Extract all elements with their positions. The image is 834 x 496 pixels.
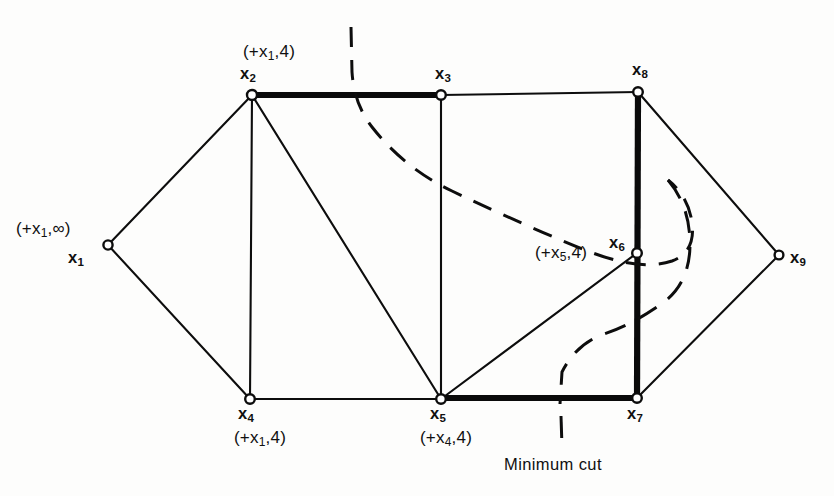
node-label-x4: x4 <box>238 404 254 424</box>
cut-curve-lower <box>560 180 690 404</box>
node-label-x9: x9 <box>790 248 806 268</box>
flow-label-x5: (+x4,4) <box>420 428 472 449</box>
node-label-x3: x3 <box>435 64 451 84</box>
edge-x3-x8 <box>441 92 638 95</box>
edge-x2-x4 <box>250 95 252 399</box>
edge-x8-x6-x7-saturated <box>637 92 638 400</box>
node-x3[interactable] <box>436 90 446 100</box>
edge-x1-x2 <box>108 95 252 245</box>
edge-x8-x9 <box>638 92 779 255</box>
edge-x1-x4 <box>108 245 250 399</box>
node-x7[interactable] <box>632 393 642 403</box>
edge-x2-x5 <box>252 95 441 399</box>
edges-thin-group <box>108 92 779 399</box>
node-x1[interactable] <box>103 240 112 249</box>
flow-label-x2: (+x1,4) <box>243 42 295 63</box>
flow-label-x1-source: (+x1,∞) <box>16 219 71 240</box>
node-label-x5: x5 <box>430 404 446 424</box>
node-x4[interactable] <box>245 394 255 404</box>
edge-x5-x6 <box>441 253 637 399</box>
node-x5[interactable] <box>436 394 446 404</box>
node-label-x7: x7 <box>627 404 643 424</box>
node-label-x8: x8 <box>632 60 648 80</box>
cut-curve-tail-end <box>561 416 562 447</box>
flow-label-x6: (+x5,4) <box>535 243 587 264</box>
node-x8[interactable] <box>633 87 643 97</box>
flow-label-x4: (+x1,4) <box>234 428 286 449</box>
edge-x7-x9 <box>637 255 779 398</box>
network-graph-canvas <box>0 0 834 496</box>
minimum-cut-figure: x1 x2 x3 x4 x5 x6 x7 x8 x9 (+x1,∞) (+x1,… <box>0 0 834 496</box>
nodes-group <box>103 87 783 404</box>
node-label-x6: x6 <box>609 233 625 253</box>
node-x6[interactable] <box>632 248 642 258</box>
node-x2[interactable] <box>247 90 257 100</box>
node-x9[interactable] <box>775 251 784 260</box>
node-label-x2: x2 <box>240 64 256 84</box>
minimum-cut-caption: Minimum cut <box>504 455 602 474</box>
node-label-x1: x1 <box>68 248 84 268</box>
